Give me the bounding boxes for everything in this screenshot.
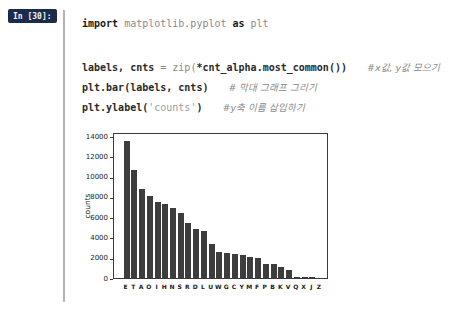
y-tick-mark	[110, 238, 113, 239]
code-comment: #y축 이름 삽입하기	[222, 102, 305, 113]
code-comment: # 막대 그래프 그리기	[228, 82, 317, 93]
bar-x	[302, 277, 308, 278]
bar-t	[131, 170, 137, 278]
bar-n	[170, 208, 176, 279]
y-tick-label: 14000	[80, 133, 108, 142]
code-segment: matplotlib.pyplot	[118, 18, 232, 29]
code-segment: as	[233, 18, 245, 29]
bar-o	[147, 196, 153, 278]
cell-prompt: In [30]:	[8, 9, 57, 23]
y-tick-label: 2000	[80, 254, 108, 263]
y-tick-mark	[110, 198, 113, 199]
bar-h	[162, 204, 168, 279]
bar-i	[155, 202, 161, 278]
code-segment: import	[82, 18, 118, 29]
code-segment: labels, cnts	[82, 62, 160, 73]
code-line: labels, cnts = zip(*cnt_alpha.most_commo…	[82, 58, 440, 78]
bar-g	[224, 253, 230, 278]
y-tick-mark	[110, 279, 113, 280]
y-tick-label: 0	[80, 275, 108, 284]
bar-w	[216, 252, 222, 278]
y-tick-mark	[110, 218, 113, 219]
bar-r	[185, 223, 191, 278]
x-tick-label: Z	[315, 283, 324, 291]
figure: counts ETAOIHNSRDLUWGCYMFPBKVQXJZ0200040…	[80, 118, 350, 304]
code-comment: #x값, y값 모으기	[367, 62, 440, 73]
code-segment: ())	[329, 62, 347, 73]
y-tick-label: 10000	[80, 173, 108, 182]
bar-s	[178, 213, 184, 278]
bar-z	[317, 278, 323, 279]
bar-u	[209, 244, 215, 279]
y-tick-label: 8000	[80, 193, 108, 202]
bar-m	[247, 257, 253, 278]
y-tick-mark	[110, 178, 113, 179]
code-segment: 'counts'	[148, 102, 196, 113]
bar-v	[286, 270, 292, 278]
code-block[interactable]: import matplotlib.pyplot as pltlabels, c…	[82, 14, 440, 118]
y-tick-mark	[110, 137, 113, 138]
code-segment: )	[196, 102, 202, 113]
notebook-cell: In [30]: import matplotlib.pyplot as plt…	[0, 0, 464, 317]
bar-c	[232, 254, 238, 278]
y-axis-label: counts	[83, 176, 93, 236]
bar-d	[193, 229, 199, 278]
cell-left-border	[63, 10, 65, 302]
y-tick-label: 12000	[80, 153, 108, 162]
code-line: import matplotlib.pyplot as plt	[82, 14, 440, 34]
bar-b	[271, 264, 277, 278]
y-tick-label: 4000	[80, 234, 108, 243]
bar-y	[240, 255, 246, 278]
plot-area	[113, 133, 328, 279]
code-segment: plt	[245, 18, 269, 29]
bar-e	[124, 141, 130, 278]
code-line: plt.ylabel('counts')#y축 이름 삽입하기	[82, 98, 440, 118]
bar-j	[309, 277, 315, 278]
code-segment: plt.bar(labels, cnts)	[82, 82, 208, 93]
code-line: plt.bar(labels, cnts)# 막대 그래프 그리기	[82, 78, 440, 98]
code-segment: plt.ylabel(	[82, 102, 148, 113]
y-tick-mark	[110, 259, 113, 260]
code-segment: =	[160, 62, 172, 73]
code-segment: zip(	[172, 62, 196, 73]
bar-l	[201, 231, 207, 278]
y-tick-label: 6000	[80, 214, 108, 223]
bar-p	[263, 264, 269, 278]
bar-q	[294, 277, 300, 278]
code-segment: *cnt_alpha.most_common	[196, 62, 328, 73]
y-tick-mark	[110, 157, 113, 158]
bar-a	[139, 189, 145, 278]
bar-f	[255, 258, 261, 278]
bar-k	[278, 267, 284, 278]
